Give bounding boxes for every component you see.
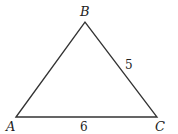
vertex-label-c: C	[155, 119, 165, 134]
vertex-label-a: A	[5, 119, 15, 134]
side-label-ac: 6	[80, 120, 88, 134]
triangle-abc	[16, 22, 157, 117]
triangle-diagram: B A C 5 6	[0, 0, 178, 134]
side-label-bc: 5	[125, 58, 133, 72]
vertex-label-b: B	[79, 4, 90, 19]
